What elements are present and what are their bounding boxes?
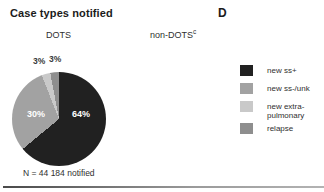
pie-slice-label-relapse: 3% xyxy=(49,54,61,64)
panel-label: D xyxy=(218,6,227,20)
pie-slice-label-new-ss-plus: 64% xyxy=(72,109,90,119)
column-label-dots: DOTS xyxy=(46,30,71,40)
column-label-non-dots: non-DOTSc xyxy=(150,30,196,40)
pie-chart xyxy=(12,72,106,166)
legend-swatch-new-ss-plus xyxy=(240,65,253,76)
legend-swatch-relapse xyxy=(240,123,253,134)
legend-label-new-ss-unk: new ss-/unk xyxy=(267,84,311,93)
legend-label-relapse: relapse xyxy=(267,124,311,133)
legend-swatch-new-ss-unk xyxy=(240,83,253,94)
column-label-non-dots-superscript: c xyxy=(193,28,196,35)
bottom-divider xyxy=(3,186,324,188)
figure-title: Case types notified xyxy=(10,7,113,19)
pie-slice-label-new-ss-unk: 30% xyxy=(27,109,45,119)
legend-item-new-ss-unk: new ss-/unk xyxy=(240,83,311,94)
legend-swatch-extra-pulmonary xyxy=(240,101,253,112)
n-notified-label: N = 44 184 notified xyxy=(23,168,95,178)
column-label-non-dots-text: non-DOTS xyxy=(150,30,193,40)
legend-item-relapse: relapse xyxy=(240,123,311,134)
pie-slice-label-extra-pulmonary: 3% xyxy=(33,56,45,66)
legend-label-extra-pulmonary: new extra-pulmonary xyxy=(267,102,311,120)
legend-item-extra-pulmonary: new extra-pulmonary xyxy=(240,101,311,120)
legend-item-new-ss-plus: new ss+ xyxy=(240,65,311,76)
legend-label-new-ss-plus: new ss+ xyxy=(267,66,311,75)
legend: new ss+ new ss-/unk new extra-pulmonary … xyxy=(240,65,320,135)
